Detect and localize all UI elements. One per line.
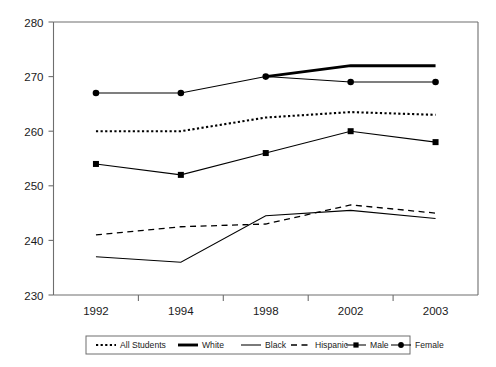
chart-background <box>0 0 496 367</box>
chart-canvas: 230240250260270280 19921994199820022003 … <box>0 0 496 367</box>
x-tick-label: 1994 <box>168 305 194 317</box>
y-tick-label: 280 <box>24 17 43 29</box>
legend-marker <box>398 342 404 348</box>
data-point-marker <box>432 79 439 86</box>
x-tick-label: 1998 <box>253 305 279 317</box>
legend-label: Black <box>265 340 287 350</box>
data-point-marker <box>93 90 100 97</box>
data-point-marker <box>347 79 354 86</box>
legend-label: All Students <box>120 340 166 350</box>
legend-label: Female <box>415 340 444 350</box>
y-tick-label: 250 <box>24 180 43 192</box>
data-point-marker <box>263 150 269 156</box>
y-tick-label: 230 <box>24 290 43 302</box>
y-tick-label: 240 <box>24 235 43 247</box>
data-point-marker <box>93 161 99 167</box>
legend-label: Hispanic <box>315 340 349 350</box>
y-tick-label: 270 <box>24 71 43 83</box>
x-tick-label: 1992 <box>83 305 109 317</box>
data-point-marker <box>178 90 185 97</box>
data-point-marker <box>433 139 439 145</box>
y-tick-label: 260 <box>24 126 43 138</box>
legend-label: White <box>202 340 224 350</box>
x-tick-label: 2003 <box>423 305 449 317</box>
legend-marker <box>353 342 358 347</box>
line-chart: 230240250260270280 19921994199820022003 … <box>0 0 496 367</box>
data-point-marker <box>178 172 184 178</box>
data-point-marker <box>262 73 269 80</box>
chart-legend: All StudentsWhiteBlackHispanicMaleFemale <box>86 336 444 354</box>
data-point-marker <box>348 128 354 134</box>
legend-label: Male <box>370 340 389 350</box>
x-tick-label: 2002 <box>338 305 364 317</box>
